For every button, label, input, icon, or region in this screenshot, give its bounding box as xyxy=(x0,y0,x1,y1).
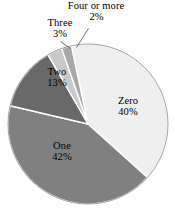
pie-label-zero: Zero 40% xyxy=(104,96,152,117)
pie-label-three: Three 3% xyxy=(36,18,84,39)
pie-label-three-percent: 3% xyxy=(36,29,84,40)
pie-label-one-percent: 42% xyxy=(38,152,86,163)
pie-label-two-percent: 13% xyxy=(34,78,80,89)
pie-label-two: Two 13% xyxy=(34,67,80,88)
pie-label-zero-percent: 40% xyxy=(104,107,152,118)
pie-chart-figure: Four or more 2% Three 3% Two 13% Zero 40… xyxy=(0,0,174,219)
pie-slices xyxy=(8,44,168,204)
pie-label-one: One 42% xyxy=(38,141,86,162)
